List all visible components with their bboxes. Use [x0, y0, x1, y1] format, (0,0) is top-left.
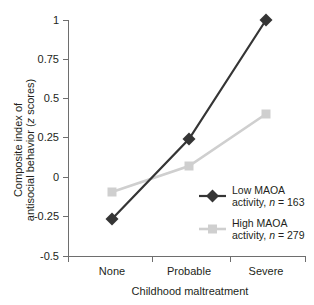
y-axis-title-line2: antisocial behavior (z scores)	[24, 79, 36, 221]
legend-label-high-maoa-line1: High MAOA	[232, 217, 287, 229]
y-axis-title-line2-post: scores)	[24, 79, 36, 118]
x-tick-label-none: None	[99, 265, 125, 277]
x-tick-label-probable: Probable	[167, 265, 211, 277]
y-tick-label-0: 0	[53, 171, 59, 183]
x-tick-label-severe: Severe	[249, 265, 284, 277]
y-tick-label-1: 1	[53, 14, 59, 26]
y-axis-title-line1: Composite index of	[12, 102, 24, 197]
legend-marker-diamond-icon	[206, 190, 219, 203]
data-point-low-maoa-severe	[260, 14, 273, 27]
legend-marker-square-icon	[208, 225, 217, 234]
legend-item-low-maoa[interactable]: Low MAOA activity, n = 163	[199, 184, 305, 208]
legend-label-low-maoa-line1: Low MAOA	[232, 184, 285, 196]
line-chart: Composite index of antisocial behavior (…	[0, 0, 314, 305]
y-tick-label-05: 0.5	[44, 92, 59, 104]
series-line-high-maoa	[112, 114, 266, 192]
data-point-high-maoa-none	[108, 188, 117, 197]
legend-high-pre: activity,	[232, 229, 269, 241]
data-point-high-maoa-severe	[262, 110, 271, 119]
y-tick-label-075: 0.75	[38, 53, 59, 65]
legend-low-pre: activity,	[232, 196, 269, 208]
legend-low-post: = 163	[275, 196, 305, 208]
y-tick-label-neg05: -0.5	[40, 250, 59, 262]
legend-label-low-maoa-line2: activity, n = 163	[232, 196, 305, 208]
legend-high-post: = 279	[275, 229, 305, 241]
y-tick-label-neg025: -0.25	[34, 210, 59, 222]
data-point-high-maoa-probable	[185, 162, 194, 171]
legend-label-high-maoa-line2: activity, n = 279	[232, 229, 305, 241]
chart-figure: Composite index of antisocial behavior (…	[0, 0, 314, 305]
y-axis-title-line2-pre: antisocial behavior (	[24, 123, 36, 221]
x-axis-title: Childhood maltreatment	[132, 285, 249, 297]
legend-item-high-maoa[interactable]: High MAOA activity, n = 279	[199, 217, 305, 241]
y-tick-label-025: 0.25	[38, 131, 59, 143]
